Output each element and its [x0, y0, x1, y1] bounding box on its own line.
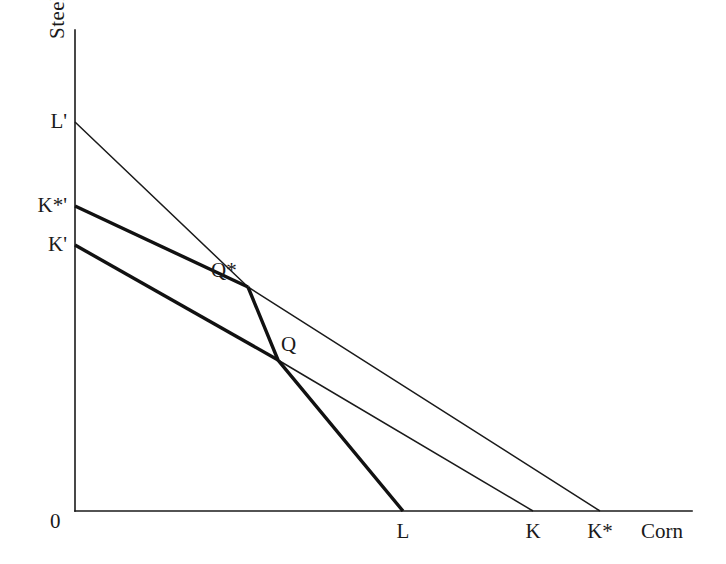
y-axis-title: Steel [47, 0, 68, 39]
x-axis-title: Corn [641, 521, 683, 542]
label-k: K [508, 521, 558, 542]
point-label-q: Q [281, 334, 296, 355]
label-k-star-prime: K*' [0, 195, 67, 216]
figure-container: Steel 0 L' K*' K' L K K* Corn Q* Q [0, 0, 726, 564]
point-label-q-star: Q* [211, 260, 237, 281]
line-k-prime-to-q [75, 245, 278, 360]
label-k-prime: K' [0, 234, 67, 255]
diagram-canvas [0, 0, 726, 564]
label-l-prime: L' [0, 111, 67, 132]
label-k-star: K* [573, 521, 627, 542]
label-l: L [378, 521, 428, 542]
line-q-star-through-q-to-l [248, 287, 403, 511]
origin-label: 0 [50, 511, 61, 532]
line-l-prime-to-k-star [75, 122, 600, 511]
line-q-to-k [278, 360, 533, 511]
